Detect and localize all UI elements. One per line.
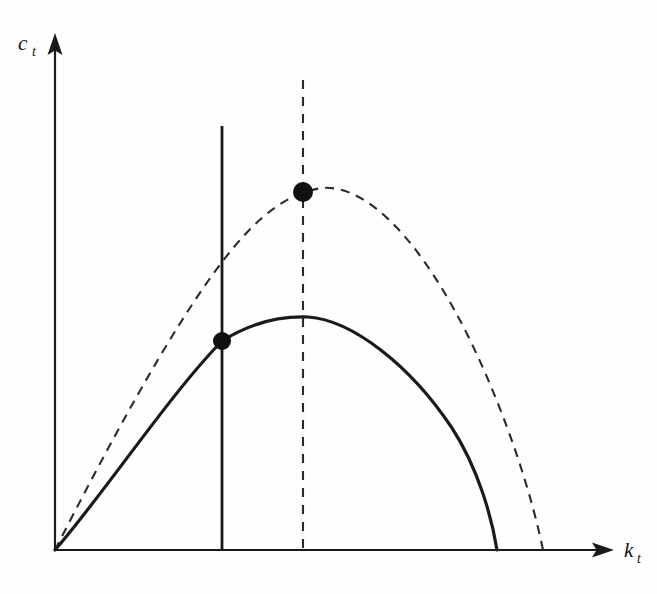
equilibrium-point-upper bbox=[293, 182, 313, 202]
y-axis-label-main: c bbox=[18, 31, 28, 55]
figure-background bbox=[0, 0, 657, 594]
x-axis-label-main: k bbox=[624, 538, 634, 562]
phase-diagram-figure: c t k t bbox=[0, 0, 657, 594]
diagram-canvas: c t k t bbox=[0, 0, 657, 594]
equilibrium-point-lower bbox=[213, 332, 231, 350]
